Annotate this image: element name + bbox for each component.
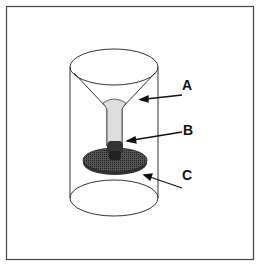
figure-frame <box>7 7 254 260</box>
label-c: C <box>182 167 192 183</box>
apparatus-diagram <box>0 0 262 268</box>
label-b: B <box>183 122 193 138</box>
knob <box>107 141 123 160</box>
label-a: A <box>182 77 192 93</box>
funnel <box>74 73 155 146</box>
pointer-arrows <box>127 95 182 188</box>
